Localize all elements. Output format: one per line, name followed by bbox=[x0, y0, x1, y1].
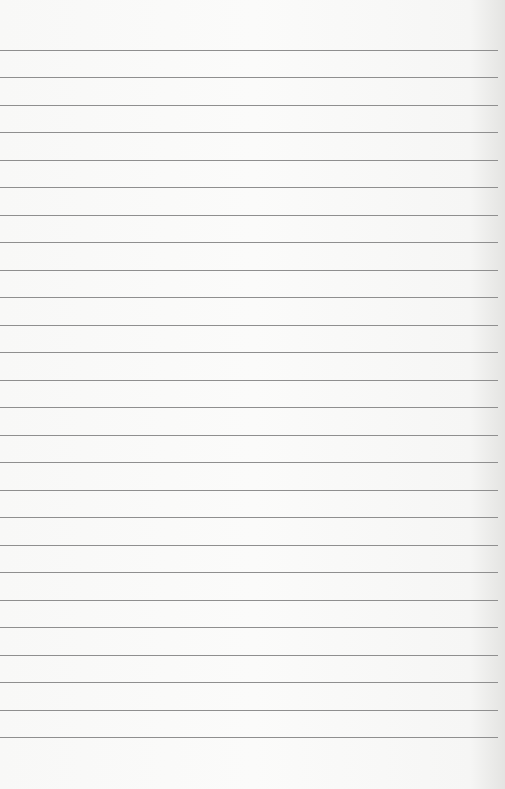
ruled-line bbox=[0, 215, 498, 216]
ruled-line bbox=[0, 105, 498, 106]
ruled-line bbox=[0, 710, 498, 711]
ruled-line bbox=[0, 325, 498, 326]
ruled-line bbox=[0, 462, 498, 463]
ruled-line bbox=[0, 435, 498, 436]
lined-paper-page bbox=[0, 0, 505, 789]
ruled-line bbox=[0, 242, 498, 243]
ruled-line bbox=[0, 407, 498, 408]
ruled-line bbox=[0, 655, 498, 656]
ruled-line bbox=[0, 682, 498, 683]
ruled-line bbox=[0, 545, 498, 546]
ruled-line bbox=[0, 352, 498, 353]
ruled-line bbox=[0, 517, 498, 518]
ruled-line bbox=[0, 627, 498, 628]
ruled-line bbox=[0, 297, 498, 298]
ruled-line bbox=[0, 270, 498, 271]
ruled-line bbox=[0, 160, 498, 161]
ruled-line bbox=[0, 737, 498, 738]
ruled-line bbox=[0, 132, 498, 133]
ruled-line bbox=[0, 572, 498, 573]
ruled-line bbox=[0, 600, 498, 601]
ruled-line bbox=[0, 490, 498, 491]
ruled-line bbox=[0, 380, 498, 381]
ruled-line bbox=[0, 187, 498, 188]
ruled-line bbox=[0, 77, 498, 78]
ruled-line bbox=[0, 50, 498, 51]
